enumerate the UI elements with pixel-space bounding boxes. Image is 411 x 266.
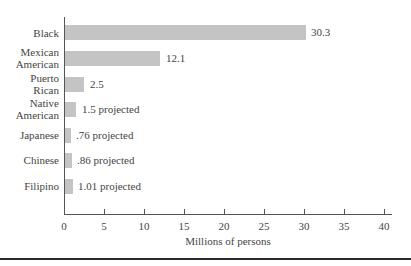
x-tick-label-25: 25: [252, 220, 276, 232]
bar-native-american: [65, 102, 76, 117]
value-label-black: 30.3: [311, 25, 330, 40]
value-label-chinese: .86 projected: [77, 153, 134, 168]
value-label-native-american: 1.5 projected: [82, 102, 139, 117]
x-tick-label-5: 5: [92, 220, 116, 232]
x-tick-35: [344, 209, 345, 214]
x-tick-label-40: 40: [372, 220, 396, 232]
value-label-filipino: 1.01 projected: [78, 179, 141, 194]
x-tick-5: [104, 209, 105, 214]
bar-puerto-rican: [65, 77, 84, 92]
x-tick-25: [264, 209, 265, 214]
category-label-native-american: NativeAmerican: [16, 97, 59, 121]
x-tick-label-15: 15: [172, 220, 196, 232]
x-tick-10: [144, 209, 145, 214]
bar-filipino: [65, 179, 73, 194]
value-label-mexican-american: 12.1: [166, 51, 185, 66]
bottom-rule-divider: [0, 258, 411, 260]
x-axis: [64, 214, 392, 215]
x-tick-20: [224, 209, 225, 214]
category-label-puerto-rican: PuertoRican: [30, 72, 59, 96]
category-label-filipino: Filipino: [24, 180, 59, 192]
value-label-japanese: .76 projected: [76, 128, 133, 143]
bar-mexican-american: [65, 51, 160, 66]
category-label-chinese: Chinese: [24, 154, 59, 166]
x-tick-label-10: 10: [132, 220, 156, 232]
x-tick-15: [184, 209, 185, 214]
x-tick-30: [304, 209, 305, 214]
x-tick-40: [384, 209, 385, 214]
bar-black: [65, 25, 306, 40]
x-axis-title: Millions of persons: [64, 235, 392, 247]
bar-japanese: [65, 128, 71, 143]
x-tick-label-0: 0: [52, 220, 76, 232]
category-label-japanese: Japanese: [20, 129, 59, 141]
category-label-mexican-american: MexicanAmerican: [16, 46, 59, 70]
x-tick-label-30: 30: [292, 220, 316, 232]
x-tick-label-20: 20: [212, 220, 236, 232]
bar-chinese: [65, 153, 72, 168]
x-tick-label-35: 35: [332, 220, 356, 232]
category-label-black: Black: [33, 27, 59, 39]
value-label-puerto-rican: 2.5: [90, 77, 104, 92]
bar-chart: Black MexicanAmerican PuertoRican Native…: [0, 0, 411, 266]
